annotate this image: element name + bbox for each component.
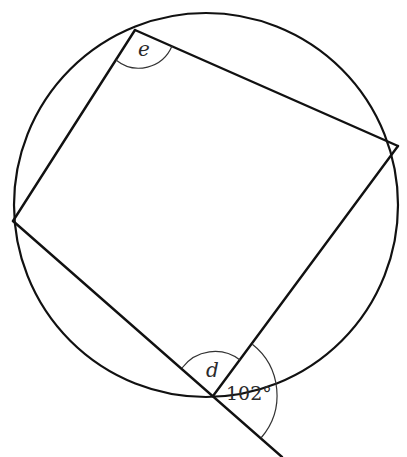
side-left-bottom-extended — [13, 221, 282, 457]
label-d: d — [206, 358, 219, 382]
label-e: e — [138, 37, 150, 61]
quadrilateral — [13, 30, 398, 457]
cyclic-quadrilateral-diagram: e d 102° — [0, 0, 407, 457]
circle — [14, 13, 398, 397]
side-right-bottom — [213, 146, 398, 396]
label-102-degrees: 102° — [226, 382, 272, 404]
